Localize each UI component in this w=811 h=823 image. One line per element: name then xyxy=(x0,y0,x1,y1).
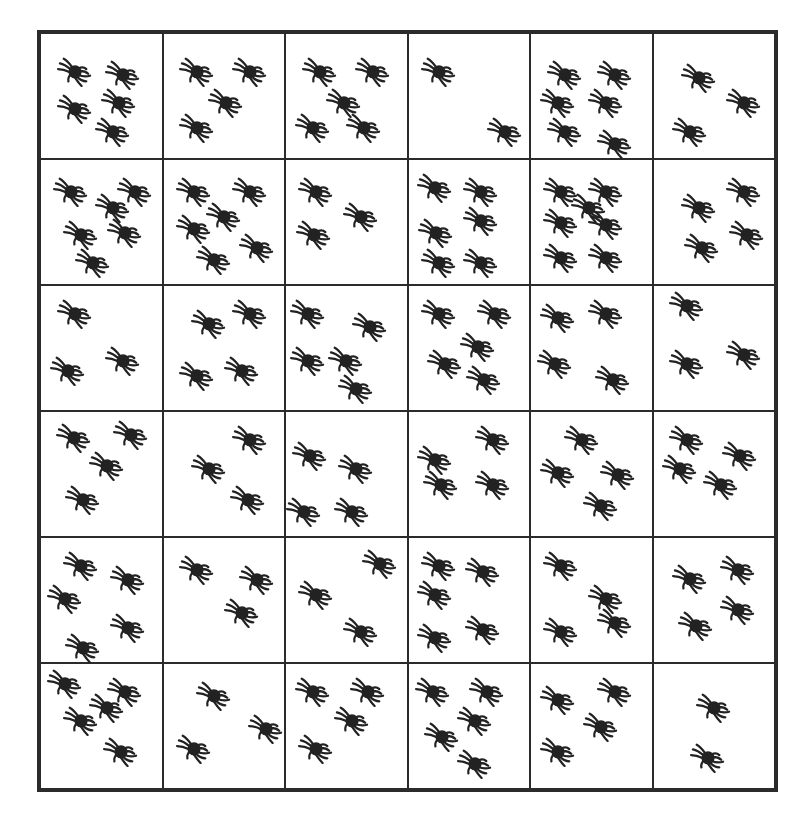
spider-icon xyxy=(109,611,147,643)
spider-icon xyxy=(301,55,339,87)
spider-icon xyxy=(297,732,335,764)
spider-icon xyxy=(354,55,392,87)
spider-icon xyxy=(195,679,233,711)
grid-cell xyxy=(163,537,286,663)
spider-icon xyxy=(231,423,269,455)
spider-icon xyxy=(542,241,580,273)
spider-icon xyxy=(46,582,84,614)
spider-icon xyxy=(668,423,706,455)
grid-cell xyxy=(285,663,408,789)
spider-icon xyxy=(542,206,580,238)
spider-icon xyxy=(539,683,577,715)
grid-cell xyxy=(653,537,776,663)
spider-icon xyxy=(661,452,699,484)
spider-icon xyxy=(56,297,94,329)
spider-icon xyxy=(74,246,112,278)
spider-icon xyxy=(668,347,706,379)
grid-cell xyxy=(408,159,531,285)
spider-icon xyxy=(229,483,267,515)
spider-icon xyxy=(62,549,100,581)
spider-icon xyxy=(64,631,102,663)
spider-icon xyxy=(289,297,327,329)
spider-icon xyxy=(247,712,285,744)
grid-cell xyxy=(653,663,776,789)
grid-cell xyxy=(530,537,653,663)
grid-cell xyxy=(40,33,163,159)
spider-icon xyxy=(594,363,632,395)
spider-icon xyxy=(297,578,335,610)
spider-icon xyxy=(677,609,715,641)
spider-icon xyxy=(422,468,460,500)
spider-icon xyxy=(289,344,327,376)
spider-icon xyxy=(337,452,375,484)
spider-icon xyxy=(546,58,584,90)
spider-icon xyxy=(238,231,276,263)
spider-icon xyxy=(420,55,458,87)
spider-icon xyxy=(420,246,458,278)
spider-icon xyxy=(333,704,371,736)
spider-icon xyxy=(294,675,332,707)
grid-cell xyxy=(163,33,286,159)
grid-cell xyxy=(653,33,776,159)
grid-cell xyxy=(408,537,531,663)
spider-icon xyxy=(680,61,718,93)
spider-icon xyxy=(64,483,102,515)
grid-cell xyxy=(408,33,531,159)
spider-icon xyxy=(536,347,574,379)
spider-icon xyxy=(728,218,766,250)
spider-icon xyxy=(582,710,620,742)
spider-icon xyxy=(223,596,261,628)
spider-icon xyxy=(349,675,387,707)
spider-icon xyxy=(539,735,577,767)
spider-icon xyxy=(546,115,584,147)
grid-cell xyxy=(163,285,286,411)
spider-icon xyxy=(671,115,709,147)
grid-cell xyxy=(163,411,286,537)
spider-icon xyxy=(175,732,213,764)
spider-icon xyxy=(563,423,601,455)
spider-icon xyxy=(55,421,93,453)
spider-icon xyxy=(587,241,625,273)
spider-icon xyxy=(456,747,494,779)
spider-icon xyxy=(539,456,577,488)
spider-icon xyxy=(414,675,452,707)
grid-cell xyxy=(530,411,653,537)
spider-icon xyxy=(462,246,500,278)
grid-cell xyxy=(530,33,653,159)
spider-icon xyxy=(417,216,455,248)
spider-icon xyxy=(459,330,497,362)
spider-icon xyxy=(294,111,332,143)
spider-icon xyxy=(587,297,625,329)
spider-icon xyxy=(106,216,144,248)
grid-cell xyxy=(40,537,163,663)
spider-icon xyxy=(104,58,142,90)
spider-icon xyxy=(238,563,276,595)
spider-icon xyxy=(62,704,100,736)
spider-icon xyxy=(474,423,512,455)
spider-icon xyxy=(337,372,375,404)
spider-icon xyxy=(56,55,94,87)
spider-icon xyxy=(416,171,454,203)
spider-icon xyxy=(416,621,454,653)
grid-cell xyxy=(285,537,408,663)
spider-icon xyxy=(587,208,625,240)
spider-icon xyxy=(486,115,524,147)
spider-icon xyxy=(345,111,383,143)
grid-cell xyxy=(40,663,163,789)
spider-icon xyxy=(719,593,757,625)
spider-icon xyxy=(539,86,577,118)
spider-icon xyxy=(683,231,721,263)
spider-icon xyxy=(178,553,216,585)
grid-cell xyxy=(163,159,286,285)
spider-icon xyxy=(599,458,637,490)
spider-icon xyxy=(342,615,380,647)
spider-icon xyxy=(297,175,335,207)
spider-icon xyxy=(295,218,333,250)
spider-icon xyxy=(671,562,709,594)
spider-icon xyxy=(542,615,580,647)
grid-cell xyxy=(40,285,163,411)
spider-icon xyxy=(56,92,94,124)
spider-icon xyxy=(464,613,502,645)
spider-icon xyxy=(420,549,458,581)
grid-cell xyxy=(408,285,531,411)
